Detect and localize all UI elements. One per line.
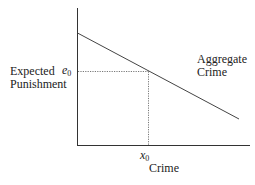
curve-label-line2: Crime bbox=[197, 66, 247, 79]
e0-label: e0 bbox=[62, 64, 71, 80]
y-axis-label: Expected Punishment bbox=[10, 65, 67, 91]
y-axis-label-line2: Punishment bbox=[10, 78, 67, 91]
curve-label: Aggregate Crime bbox=[197, 53, 247, 79]
x-axis-label: Crime bbox=[149, 162, 179, 175]
diagram-canvas bbox=[0, 0, 255, 185]
x0-label: x0 bbox=[140, 149, 149, 165]
